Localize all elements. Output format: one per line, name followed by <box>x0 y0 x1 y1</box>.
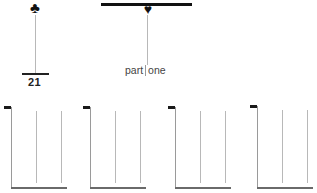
bracket-inner-line <box>225 111 226 183</box>
part-separator <box>145 65 146 76</box>
heart-stem-line <box>147 15 148 65</box>
bracket-tick <box>4 106 11 109</box>
club-stem-line <box>35 15 36 73</box>
one-label: one <box>148 64 166 76</box>
bracket-inner-line <box>36 111 37 183</box>
bracket-left-line <box>257 106 258 188</box>
bracket-left-line <box>90 107 91 188</box>
bracket-left-line <box>11 107 12 188</box>
bracket-inner-line <box>307 110 308 183</box>
bracket-tick <box>83 106 90 109</box>
bracket-baseline <box>257 187 313 189</box>
club-base-bar <box>22 73 49 75</box>
number-label: 21 <box>28 76 41 88</box>
bracket-inner-line <box>140 111 141 183</box>
club-icon: ♣ <box>27 0 43 15</box>
bracket-baseline <box>11 187 67 189</box>
bracket-inner-line <box>61 111 62 183</box>
bracket-inner-line <box>200 111 201 183</box>
bracket-left-line <box>175 107 176 188</box>
part-label: part <box>125 64 143 76</box>
bracket-baseline <box>90 187 146 189</box>
bracket-tick <box>250 105 257 108</box>
bracket-baseline <box>175 187 231 189</box>
heart-icon: ♥ <box>139 2 157 16</box>
bracket-tick <box>168 106 175 109</box>
part-one-label: partone <box>125 64 166 76</box>
bracket-inner-line <box>115 111 116 183</box>
bracket-inner-line <box>282 110 283 183</box>
